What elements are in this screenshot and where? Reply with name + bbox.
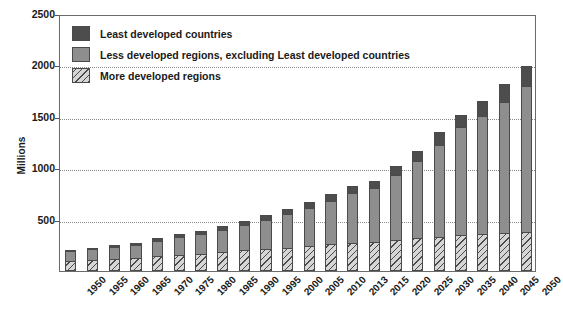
x-axis-tick-label: 1960 xyxy=(128,274,152,298)
bar-1975[interactable] xyxy=(174,234,185,271)
bar-2013[interactable] xyxy=(347,186,358,271)
bar-2000[interactable] xyxy=(282,209,293,271)
x-axis-tick-label: 1965 xyxy=(149,274,173,298)
bar-segment-less xyxy=(325,201,336,245)
bar-segment-least xyxy=(325,194,336,201)
bar-segment-less xyxy=(347,193,358,242)
bar-segment-least xyxy=(174,234,185,237)
bar-2035[interactable] xyxy=(455,115,466,271)
bar-segment-less xyxy=(390,175,401,240)
legend-item-least-developed-countries: Least developed countries xyxy=(72,24,472,43)
bar-2015[interactable] xyxy=(369,181,380,271)
bar-segment-less xyxy=(152,241,163,256)
bar-2030[interactable] xyxy=(434,132,445,271)
bar-1950[interactable] xyxy=(65,250,76,271)
x-axis-tick-label: 2040 xyxy=(496,274,520,298)
x-axis-tick-group: 1950195519601965197019751980198519901995… xyxy=(59,274,536,322)
x-axis-tick-label: 1955 xyxy=(106,274,130,298)
bar-segment-less xyxy=(260,220,271,250)
bar-segment-more xyxy=(87,260,98,271)
bar-segment-more xyxy=(130,258,141,271)
bar-segment-least xyxy=(477,101,488,116)
bar-segment-more xyxy=(521,232,532,271)
bar-1970[interactable] xyxy=(152,238,163,271)
bar-segment-least xyxy=(109,245,120,247)
x-axis-tick-label: 1985 xyxy=(236,274,260,298)
y-axis-tick-label: 2000 xyxy=(0,59,55,71)
x-axis-tick-label: 1950 xyxy=(84,274,108,298)
bar-segment-more xyxy=(347,243,358,271)
bar-segment-least xyxy=(347,186,358,193)
y-axis-tick-label: 500 xyxy=(0,214,55,226)
bar-1965[interactable] xyxy=(130,243,141,271)
bar-segment-less xyxy=(239,225,250,250)
bar-segment-more xyxy=(260,249,271,271)
bar-segment-least xyxy=(369,181,380,189)
bar-2050[interactable] xyxy=(521,66,532,271)
x-axis-tick-label: 2000 xyxy=(301,274,325,298)
bar-segment-more xyxy=(304,246,315,271)
bar-segment-more xyxy=(174,255,185,271)
x-axis-tick-label: 1995 xyxy=(279,274,303,298)
x-axis-tick-label: 2013 xyxy=(366,274,390,298)
x-axis-tick-label: 2015 xyxy=(388,274,412,298)
bar-segment-more xyxy=(455,235,466,271)
bar-segment-more xyxy=(65,261,76,271)
bar-1960[interactable] xyxy=(109,245,120,271)
bar-segment-least xyxy=(87,248,98,250)
bar-segment-more xyxy=(195,254,206,271)
bar-segment-less xyxy=(130,245,141,258)
legend-item-more-developed-regions: More developed regions xyxy=(72,66,472,85)
bar-2010[interactable] xyxy=(325,194,336,271)
x-axis-tick-label: 2035 xyxy=(475,274,499,298)
legend-item-label: Less developed regions, excluding Least … xyxy=(100,49,410,61)
bar-segment-least xyxy=(499,84,510,103)
x-axis-tick-label: 2025 xyxy=(431,274,455,298)
bar-segment-less xyxy=(521,86,532,232)
bar-segment-more xyxy=(499,233,510,271)
bar-segment-least xyxy=(260,215,271,220)
bar-1985[interactable] xyxy=(217,226,228,271)
bar-segment-least xyxy=(217,226,228,230)
bar-segment-more xyxy=(152,256,163,271)
legend-item-less-developed-regions: Less developed regions, excluding Least … xyxy=(72,45,472,64)
bar-segment-least xyxy=(130,243,141,245)
bar-2045[interactable] xyxy=(499,84,510,271)
bar-segment-less xyxy=(65,251,76,261)
bar-segment-more xyxy=(239,250,250,271)
bar-segment-least xyxy=(282,209,293,214)
bar-2040[interactable] xyxy=(477,101,488,271)
bar-segment-more xyxy=(390,240,401,271)
y-axis-title: Millions xyxy=(16,111,27,201)
y-axis-tick-label: 1000 xyxy=(0,162,55,174)
bar-segment-less xyxy=(217,230,228,252)
bar-segment-more xyxy=(325,244,336,271)
bar-1980[interactable] xyxy=(195,231,206,271)
legend-swatch-icon xyxy=(72,26,90,41)
bar-segment-less xyxy=(434,145,445,236)
bar-2025[interactable] xyxy=(412,151,423,271)
legend-swatch-icon xyxy=(72,47,90,62)
x-axis-tick-label: 2030 xyxy=(453,274,477,298)
legend: Least developed countries Less developed… xyxy=(72,24,472,87)
bar-segment-least xyxy=(152,238,163,241)
bar-segment-more xyxy=(412,238,423,271)
bar-segment-less xyxy=(412,161,423,238)
bar-segment-least xyxy=(521,66,532,87)
bar-1995[interactable] xyxy=(260,215,271,271)
legend-item-label: More developed regions xyxy=(100,70,221,82)
bar-segment-least xyxy=(304,202,315,208)
bar-2020[interactable] xyxy=(390,166,401,271)
bar-2005[interactable] xyxy=(304,202,315,271)
bar-segment-more xyxy=(282,248,293,271)
bar-segment-more xyxy=(109,259,120,271)
bar-1955[interactable] xyxy=(87,248,98,271)
bar-segment-less xyxy=(455,127,466,235)
bar-1990[interactable] xyxy=(239,221,250,271)
x-axis-tick-label: 1980 xyxy=(214,274,238,298)
bar-segment-less xyxy=(369,188,380,241)
x-axis-tick-label: 2020 xyxy=(410,274,434,298)
y-axis-tick-label: 2500 xyxy=(0,8,55,20)
bar-segment-less xyxy=(282,214,293,248)
